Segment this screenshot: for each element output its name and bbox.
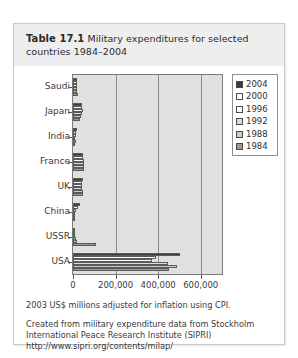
y-tick-mark: [68, 262, 72, 263]
legend-item-1988[interactable]: 1988: [236, 128, 275, 141]
x-tick-mark: [201, 275, 202, 279]
legend-label: 1988: [246, 130, 268, 139]
bar-group-china: [73, 203, 222, 221]
y-axis-label-ussr: USSR: [14, 231, 70, 241]
card-footer: 2003 US$ millions adjusted for inflation…: [14, 300, 284, 352]
y-axis-label-uk: UK: [14, 181, 70, 191]
y-axis-label-india: India: [14, 131, 70, 141]
bar-group-uk: [73, 178, 222, 196]
legend-item-1984[interactable]: 1984: [236, 141, 275, 154]
bar-france-1984[interactable]: [73, 168, 84, 171]
y-tick-mark: [68, 87, 72, 88]
y-tick-mark: [68, 212, 72, 213]
bar-china-1984[interactable]: [73, 218, 75, 221]
bar-japan-1984[interactable]: [73, 118, 80, 121]
x-axis-label-200000: 200,000: [98, 280, 133, 290]
legend-label: 1984: [246, 142, 268, 151]
bar-uk-1984[interactable]: [73, 193, 83, 196]
legend-item-1992[interactable]: 1992: [236, 116, 275, 129]
footer-source-line2: International Peace Research Institute (…: [26, 330, 272, 341]
y-tick-mark: [68, 112, 72, 113]
y-tick-mark: [68, 187, 72, 188]
plot-area: [72, 74, 223, 275]
table-card: Table 17.1 Military expenditures for sel…: [13, 23, 285, 345]
x-tick-mark: [116, 275, 117, 279]
bar-group-japan: [73, 103, 222, 121]
page-title: Table 17.1 Military expenditures for sel…: [26, 32, 272, 58]
y-axis-label-saudi: Saudi: [14, 81, 70, 91]
y-axis-label-china: China: [14, 206, 70, 216]
bar-usa-1984[interactable]: [73, 268, 169, 271]
card-title-bar: Table 17.1 Military expenditures for sel…: [14, 24, 284, 66]
x-axis-label-600000: 600,000: [183, 280, 218, 290]
table-number: Table 17.1: [26, 33, 84, 44]
bar-group-france: [73, 153, 222, 171]
bar-ussr-1984[interactable]: [73, 243, 96, 246]
legend-swatch-icon: [236, 118, 243, 125]
legend-item-2004[interactable]: 2004: [236, 78, 275, 91]
bar-saudi-1984[interactable]: [73, 93, 78, 96]
y-axis-label-usa: USA: [14, 256, 70, 266]
x-axis-label-400000: 400,000: [141, 280, 176, 290]
bar-group-saudi: [73, 78, 222, 96]
legend-label: 1996: [246, 105, 268, 114]
legend-swatch-icon: [236, 93, 243, 100]
bar-group-usa: [73, 253, 222, 271]
y-tick-mark: [68, 237, 72, 238]
x-tick-mark: [73, 275, 74, 279]
y-axis-label-japan: Japan: [14, 106, 70, 116]
legend-label: 2000: [246, 92, 268, 101]
y-tick-mark: [68, 137, 72, 138]
legend-item-1996[interactable]: 1996: [236, 103, 275, 116]
x-tick-mark: [158, 275, 159, 279]
x-axis-label-0: 0: [70, 280, 75, 290]
legend-label: 2004: [246, 80, 268, 89]
chart-legend: 200420001996199219881984: [232, 74, 278, 156]
legend-label: 1992: [246, 117, 268, 126]
y-axis-label-france: France: [14, 156, 70, 166]
legend-swatch-icon: [236, 106, 243, 113]
footer-note: 2003 US$ millions adjusted for inflation…: [26, 300, 272, 311]
bar-india-1984[interactable]: [73, 143, 75, 146]
legend-item-2000[interactable]: 2000: [236, 91, 275, 104]
legend-swatch-icon: [236, 131, 243, 138]
legend-swatch-icon: [236, 143, 243, 150]
y-tick-mark: [68, 162, 72, 163]
legend-swatch-icon: [236, 81, 243, 88]
footer-url: http://www.sipri.org/contents/milap/: [26, 341, 272, 352]
footer-source-line1: Created from military expenditure data f…: [26, 319, 272, 330]
bar-group-ussr: [73, 228, 222, 246]
bar-group-india: [73, 128, 222, 146]
